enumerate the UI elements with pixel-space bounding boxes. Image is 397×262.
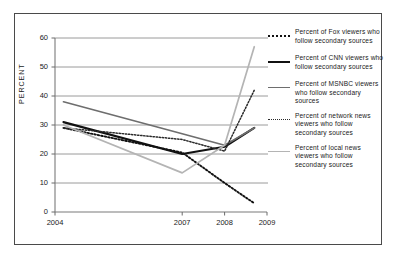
- legend-marker-network-news-icon: [268, 119, 290, 120]
- legend-entry-msnbc: Percent of MSNBC viewers who follow seco…: [268, 80, 384, 106]
- series-line-msnbc: [63, 102, 254, 146]
- legend-label: Percent of local news viewers who follow…: [295, 144, 384, 170]
- legend-entry-network-news: Percent of network news viewers who foll…: [268, 112, 384, 138]
- x-tick-label-2008: 2008: [210, 218, 240, 227]
- y-tick-label-0: 0: [26, 207, 48, 216]
- legend-entry-fox: Percent of Fox viewers who follow second…: [268, 28, 384, 48]
- x-tick-label-2007: 2007: [167, 218, 197, 227]
- legend-marker-fox-icon: [268, 35, 290, 37]
- legend-marker-cnn-icon: [268, 61, 290, 63]
- y-tick-label-60: 60: [26, 33, 48, 42]
- legend-entry-local-news: Percent of local news viewers who follow…: [268, 144, 384, 170]
- legend-label: Percent of MSNBC viewers who follow seco…: [295, 80, 384, 106]
- y-tick-label-20: 20: [26, 149, 48, 158]
- y-tick-label-10: 10: [26, 178, 48, 187]
- y-tick-label-40: 40: [26, 91, 48, 100]
- legend-marker-msnbc-icon: [268, 87, 290, 88]
- legend-label: Percent of CNN viewers who follow second…: [295, 54, 384, 71]
- y-tick-label-30: 30: [26, 120, 48, 129]
- x-tick-label-2009: 2009: [252, 218, 282, 227]
- y-axis-title: PERCENT: [17, 44, 26, 104]
- y-tick-label-50: 50: [26, 62, 48, 71]
- gridlines-group: [55, 38, 268, 183]
- chart-legend: Percent of Fox viewers who follow second…: [268, 28, 384, 175]
- legend-marker-local-news-icon: [268, 151, 290, 152]
- legend-label: Percent of network news viewers who foll…: [295, 112, 384, 138]
- legend-entry-cnn: Percent of CNN viewers who follow second…: [268, 54, 384, 74]
- legend-label: Percent of Fox viewers who follow second…: [295, 28, 384, 45]
- x-tick-label-2004: 2004: [40, 218, 70, 227]
